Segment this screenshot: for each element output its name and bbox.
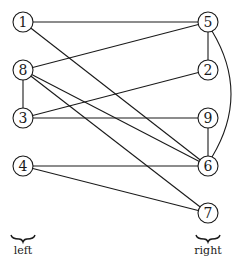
- node-label: 9: [204, 110, 213, 126]
- node-1: 1: [13, 12, 33, 32]
- brace-icon: [196, 235, 220, 242]
- node-3: 3: [13, 108, 33, 128]
- node-4: 4: [13, 156, 33, 176]
- left-side-label: left: [14, 244, 33, 257]
- groups-layer: leftright: [11, 235, 222, 257]
- node-label: 7: [204, 205, 213, 221]
- edge-4-7: [23, 166, 208, 213]
- node-label: 1: [19, 14, 28, 30]
- group-right: right: [194, 235, 222, 257]
- edge-8-5: [23, 22, 208, 70]
- edge-5-6: [212, 31, 231, 157]
- node-label: 2: [204, 62, 213, 78]
- node-label: 3: [19, 110, 28, 126]
- group-left: left: [11, 235, 35, 257]
- node-8: 8: [13, 60, 33, 80]
- right-side-label: right: [194, 244, 222, 257]
- node-label: 5: [204, 14, 213, 30]
- node-5: 5: [198, 12, 218, 32]
- node-label: 8: [19, 62, 28, 78]
- node-label: 4: [19, 158, 28, 174]
- node-6: 6: [198, 156, 218, 176]
- node-2: 2: [198, 60, 218, 80]
- edge-3-2: [23, 70, 208, 118]
- edge-8-7: [23, 70, 208, 213]
- bipartite-graph-diagram: 183452967 leftright: [0, 0, 243, 274]
- node-9: 9: [198, 108, 218, 128]
- node-7: 7: [198, 203, 218, 223]
- graph-canvas: 183452967 leftright: [0, 0, 243, 274]
- node-label: 6: [204, 158, 213, 174]
- brace-icon: [11, 235, 35, 242]
